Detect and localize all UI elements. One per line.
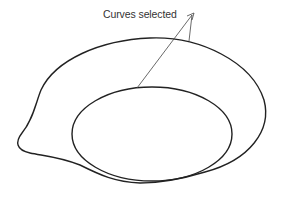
outer-curve (18, 38, 266, 183)
curves-diagram (0, 0, 288, 201)
callout-line-inner (137, 15, 192, 88)
callout-label: Curves selected (103, 8, 177, 20)
inner-ellipse (72, 87, 232, 181)
